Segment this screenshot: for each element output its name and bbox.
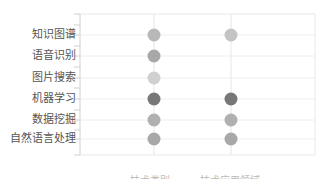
legend-item-2[interactable]: 技术应用领域 — [200, 172, 260, 179]
y-label-machine-learning: 机器学习 — [32, 93, 76, 105]
y-label-image-search: 图片搜索 — [32, 72, 76, 84]
dot-nlp-1[interactable] — [148, 133, 161, 146]
dot-machine-learning-2[interactable] — [225, 93, 238, 106]
y-label-nlp: 自然语言处理 — [10, 133, 76, 145]
legend-item-1[interactable]: 技术类别 — [130, 172, 170, 179]
dot-nlp-2[interactable] — [225, 133, 238, 146]
dot-data-mining-2[interactable] — [225, 114, 238, 127]
dot-matrix-chart — [0, 0, 318, 179]
dot-knowledge-graph-1[interactable] — [148, 29, 161, 42]
dot-knowledge-graph-2[interactable] — [225, 29, 238, 42]
horizontal-gridlines — [80, 35, 315, 139]
dot-image-search-1[interactable] — [148, 72, 161, 85]
dot-speech-recognition-1[interactable] — [148, 50, 161, 63]
y-label-data-mining: 数据挖掘 — [32, 114, 76, 126]
y-label-knowledge-graph: 知识图谱 — [32, 29, 76, 41]
dot-machine-learning-1[interactable] — [148, 93, 161, 106]
y-label-speech-recognition: 语音识别 — [32, 50, 76, 62]
dot-data-mining-1[interactable] — [148, 114, 161, 127]
